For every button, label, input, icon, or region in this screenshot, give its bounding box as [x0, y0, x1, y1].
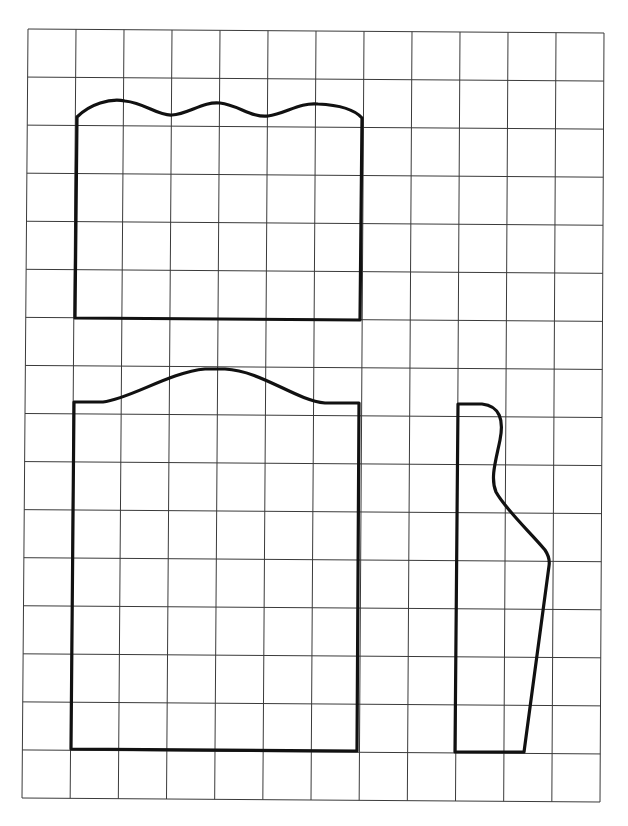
grid [22, 29, 604, 802]
pattern-diagram [0, 0, 628, 826]
piece-sleeve [455, 404, 549, 752]
